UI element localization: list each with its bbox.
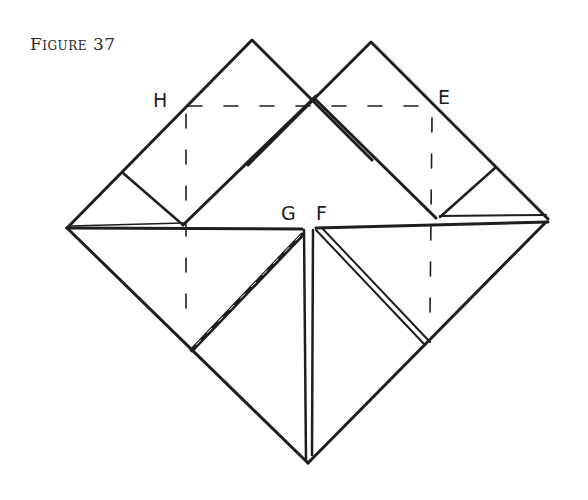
right-double-diagonal-a xyxy=(316,230,425,345)
right-double-diagonal-b xyxy=(322,228,430,342)
left-flap-segment xyxy=(123,173,183,225)
label-h: H xyxy=(153,89,167,111)
left-horizontal-fold xyxy=(67,228,302,229)
label-f: F xyxy=(316,202,327,224)
lower-left-edge xyxy=(67,228,308,463)
right-horizontal-fold xyxy=(316,222,548,228)
label-e: E xyxy=(438,86,450,108)
origami-diagram: H E G F xyxy=(0,0,588,500)
center-vertical-f xyxy=(312,230,313,455)
center-vertical-g xyxy=(304,230,306,460)
right-dashed-vertical xyxy=(430,118,432,315)
left-inner-ridge xyxy=(183,96,316,225)
right-flap-segment xyxy=(440,168,495,217)
label-g: G xyxy=(281,202,296,224)
outer-left-edge xyxy=(67,40,372,228)
left-horizontal-fold-inner xyxy=(70,223,183,226)
right-inner-ridge xyxy=(314,98,436,218)
left-thick-diagonal xyxy=(192,235,302,350)
outer-right-edge xyxy=(248,42,548,219)
right-horizontal-fold-inner xyxy=(440,215,546,216)
